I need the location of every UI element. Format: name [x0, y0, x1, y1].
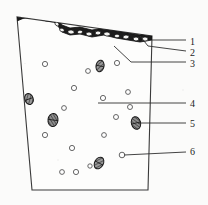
- cross-section-drawing: [0, 0, 208, 205]
- void-8: [128, 105, 133, 110]
- void-10: [42, 132, 47, 137]
- void-2: [86, 69, 91, 74]
- figure-canvas: 123456: [0, 0, 208, 205]
- specimen-body: [17, 17, 152, 190]
- crust-inclusion-10: [104, 32, 111, 37]
- void-6: [100, 95, 105, 100]
- callout-label-5: 5: [190, 119, 195, 129]
- void-15: [73, 169, 78, 174]
- void-11: [102, 133, 107, 138]
- callout-label-1: 1: [190, 37, 195, 47]
- callout-label-4: 4: [190, 99, 195, 109]
- void-1: [42, 61, 47, 66]
- callout-label-6: 6: [190, 147, 195, 157]
- void-13: [119, 152, 125, 158]
- void-16: [88, 164, 92, 168]
- crust-inclusion-11: [114, 34, 119, 38]
- callout-label-2: 2: [190, 48, 195, 58]
- void-12: [69, 145, 74, 150]
- void-7: [62, 106, 67, 111]
- crust-inclusion-6: [68, 30, 75, 35]
- crust-inclusion-3: [37, 15, 42, 19]
- crust-inclusion-2: [28, 14, 35, 18]
- void-14: [60, 170, 65, 175]
- crust-inclusion-7: [77, 30, 83, 34]
- void-4: [71, 85, 76, 90]
- crust-inclusion-8: [86, 32, 92, 36]
- crust-inclusion-12: [123, 35, 129, 39]
- crust-inclusion-9: [95, 31, 101, 35]
- void-5: [126, 90, 131, 95]
- crust-inclusion-13: [133, 37, 139, 41]
- specimen-outline: [17, 17, 152, 190]
- void-3: [114, 60, 119, 65]
- callout-label-3: 3: [190, 59, 195, 69]
- void-9: [114, 115, 119, 120]
